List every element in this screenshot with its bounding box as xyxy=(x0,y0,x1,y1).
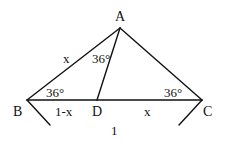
brace-left-arm xyxy=(27,100,50,125)
angle-label-b: 36° xyxy=(46,85,64,100)
side-label-bd: 1-x xyxy=(55,104,73,119)
point-label-d: D xyxy=(92,104,102,119)
side-label-ab: x xyxy=(63,51,70,66)
side-label-bc: 1 xyxy=(111,123,118,138)
point-label-c: C xyxy=(203,104,212,119)
segment-ac xyxy=(120,28,202,100)
brace-right-arm xyxy=(179,100,202,125)
side-label-dc: x xyxy=(144,104,151,119)
point-label-a: A xyxy=(115,9,126,24)
angle-label-c: 36° xyxy=(164,85,182,100)
point-label-b: B xyxy=(13,104,22,119)
triangle-diagram: A B D C x 1-x x 1 36° 36° 36° xyxy=(0,0,226,141)
angle-label-dab: 36° xyxy=(92,51,110,66)
